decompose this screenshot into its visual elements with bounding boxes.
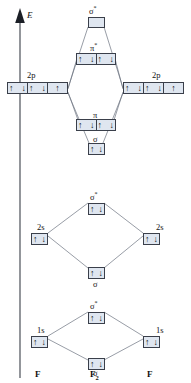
orbital-cell <box>89 18 104 27</box>
spin-down-arrow: ↓ <box>99 145 104 154</box>
spin-down-arrow: ↓ <box>99 205 104 214</box>
sigma-star-2p-label: σ* <box>89 5 97 16</box>
bottom-label-molecule: F2 <box>90 369 99 381</box>
orbital-cell: ↑ ↓ <box>96 120 116 130</box>
orbital-cell: ↑ ↓ <box>143 83 163 93</box>
spin-up-arrow: ↑ <box>145 338 150 347</box>
mo-diagram-canvas: E σ* π* ↑ ↓ ↑ ↓ 2p ↑ ↓ ↑ ↓ ↑ 2p <box>0 0 191 383</box>
spin-up-arrow: ↑ <box>145 235 150 244</box>
spin-down-arrow: ↓ <box>110 55 115 64</box>
spin-up-arrow: ↑ <box>78 55 83 64</box>
orbital-cell: ↑ ↓ <box>96 54 116 64</box>
spin-up-arrow: ↑ <box>125 84 130 93</box>
spin-down-arrow: ↓ <box>99 360 104 369</box>
sigma-star-2s-label: σ* <box>90 191 98 202</box>
pi-star-2p-box: ↑ ↓ ↑ ↓ <box>76 53 116 65</box>
orbital-cell: ↑ ↓ <box>89 204 104 214</box>
orbital-cell: ↑ ↓ <box>124 83 143 93</box>
atomic-2s-right-box: ↑ ↓ <box>143 233 160 245</box>
spin-down-arrow: ↓ <box>110 121 115 130</box>
spin-down-arrow: ↓ <box>90 55 95 64</box>
spin-up-arrow: ↑ <box>33 338 38 347</box>
sigma-2s-label: σ <box>93 279 98 289</box>
spin-up-arrow: ↑ <box>90 145 95 154</box>
spin-down-arrow: ↓ <box>22 84 27 93</box>
spin-down-arrow: ↓ <box>42 338 47 347</box>
spin-up-arrow: ↑ <box>29 84 34 93</box>
spin-down-arrow: ↓ <box>154 338 159 347</box>
pi-2p-box: ↑ ↓ ↑ ↓ <box>76 119 116 131</box>
spin-up-arrow: ↑ <box>171 84 176 93</box>
spin-down-arrow: ↓ <box>42 84 47 93</box>
atomic-2s-left-box: ↑ ↓ <box>31 233 48 245</box>
orbital-cell: ↑ ↓ <box>77 54 96 64</box>
spin-down-arrow: ↓ <box>154 235 159 244</box>
sigma-2s-box: ↑ ↓ <box>88 267 105 279</box>
atomic-1s-right-box: ↑ ↓ <box>143 336 160 348</box>
atomic-2p-right-label: 2p <box>152 70 161 80</box>
spin-down-arrow: ↓ <box>90 121 95 130</box>
bottom-label-left-atom: F <box>35 369 41 379</box>
spin-up-arrow: ↑ <box>55 84 60 93</box>
spin-up-arrow: ↑ <box>98 55 103 64</box>
pi-star-2p-label: π* <box>90 42 97 53</box>
atomic-2s-right-label: 2s <box>156 222 164 232</box>
atomic-2s-left-label: 2s <box>37 222 45 232</box>
atomic-1s-left-box: ↑ ↓ <box>31 336 48 348</box>
spin-up-arrow: ↑ <box>145 84 150 93</box>
orbital-cell: ↑ <box>47 83 67 93</box>
atomic-2p-right-box: ↑ ↓ ↑ ↓ ↑ <box>123 82 184 94</box>
sigma-star-2s-box: ↑ ↓ <box>88 203 105 215</box>
atomic-1s-left-label: 1s <box>37 325 45 335</box>
spin-up-arrow: ↑ <box>90 205 95 214</box>
spin-up-arrow: ↑ <box>90 269 95 278</box>
spin-down-arrow: ↓ <box>42 235 47 244</box>
spin-up-arrow: ↑ <box>33 235 38 244</box>
orbital-cell: ↑ <box>163 83 183 93</box>
spin-up-arrow: ↑ <box>98 121 103 130</box>
spin-up-arrow: ↑ <box>90 314 95 323</box>
spin-down-arrow: ↓ <box>99 269 104 278</box>
energy-axis <box>15 8 25 378</box>
spin-up-arrow: ↑ <box>9 84 14 93</box>
orbital-cell: ↑ ↓ <box>27 83 47 93</box>
sigma-star-2p-box <box>88 17 105 28</box>
atomic-1s-right-label: 1s <box>156 325 164 335</box>
orbital-cell: ↑ ↓ <box>77 120 96 130</box>
orbital-cell: ↑ ↓ <box>32 234 47 244</box>
spin-up-arrow: ↑ <box>78 121 83 130</box>
energy-axis-label: E <box>27 10 33 20</box>
atomic-2p-left-box: ↑ ↓ ↑ ↓ ↑ <box>7 82 68 94</box>
orbital-cell: ↑ ↓ <box>8 83 27 93</box>
atomic-2p-left-label: 2p <box>27 70 36 80</box>
orbital-cell: ↑ ↓ <box>32 337 47 347</box>
orbital-cell: ↑ ↓ <box>144 337 159 347</box>
orbital-cell: ↑ ↓ <box>144 234 159 244</box>
spin-down-arrow: ↓ <box>158 84 163 93</box>
orbital-cell: ↑ ↓ <box>89 144 104 154</box>
sigma-star-1s-label: σ* <box>90 300 98 311</box>
orbital-cell: ↑ ↓ <box>89 313 104 323</box>
bottom-label-right-atom: F <box>147 369 153 379</box>
spin-down-arrow: ↓ <box>99 314 104 323</box>
sigma-star-1s-box: ↑ ↓ <box>88 312 105 324</box>
orbital-cell: ↑ ↓ <box>89 268 104 278</box>
sigma-2p-box: ↑ ↓ <box>88 143 105 155</box>
spin-down-arrow: ↓ <box>138 84 143 93</box>
